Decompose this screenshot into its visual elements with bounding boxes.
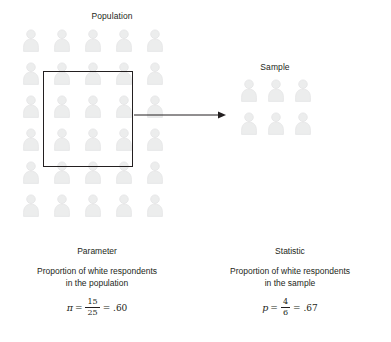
person-icon	[240, 78, 258, 102]
sample-title: Sample	[225, 62, 325, 72]
person-icon	[146, 127, 164, 151]
statistic-description-line2: in the sample	[210, 277, 370, 289]
parameter-numerator: 15	[85, 298, 99, 307]
population-title: Population	[62, 11, 162, 21]
person-icon	[53, 28, 71, 52]
parameter-equals: =	[75, 302, 83, 314]
person-icon	[294, 78, 312, 102]
statistic-numerator: 4	[281, 298, 290, 307]
person-icon	[22, 94, 40, 118]
statistic-symbol: p	[262, 302, 268, 314]
statistic-denominator: 6	[281, 308, 290, 317]
person-icon	[146, 160, 164, 184]
diagram-canvas: Population Sample Parameter Proportion o…	[0, 0, 391, 342]
person-icon	[22, 28, 40, 52]
person-icon	[53, 28, 71, 52]
person-icon	[294, 111, 312, 135]
person-icon	[267, 78, 285, 102]
person-icon	[22, 61, 40, 85]
person-icon	[146, 28, 164, 52]
person-icon	[267, 111, 285, 135]
parameter-heading: Parameter	[22, 245, 172, 257]
person-icon	[146, 160, 164, 184]
person-icon	[146, 28, 164, 52]
person-icon	[146, 61, 164, 85]
sampling-arrow-icon	[134, 108, 226, 122]
person-icon	[22, 28, 40, 52]
person-icon	[115, 28, 133, 52]
person-icon	[22, 193, 40, 217]
statistic-description-line1: Proportion of white respondents	[210, 265, 370, 277]
person-icon	[22, 127, 40, 151]
person-icon	[22, 160, 40, 184]
statistic-heading: Statistic	[210, 245, 370, 257]
statistic-equals: =	[270, 302, 278, 314]
person-icon	[146, 193, 164, 217]
person-icon	[22, 94, 40, 118]
person-icon	[267, 78, 285, 102]
person-icon	[22, 193, 40, 217]
parameter-denominator: 25	[85, 308, 99, 317]
parameter-result: = .60	[103, 302, 128, 314]
person-icon	[84, 28, 102, 52]
person-icon	[146, 193, 164, 217]
parameter-caption: Parameter Proportion of white respondent…	[22, 245, 172, 317]
person-icon	[115, 193, 133, 217]
person-icon	[146, 127, 164, 151]
parameter-fraction: 15 25	[85, 298, 99, 317]
person-icon	[84, 193, 102, 217]
parameter-symbol: π	[67, 302, 73, 314]
person-icon	[294, 78, 312, 102]
person-icon	[22, 160, 40, 184]
person-icon	[267, 111, 285, 135]
person-icon	[240, 111, 258, 135]
statistic-caption: Statistic Proportion of white respondent…	[210, 245, 370, 317]
person-icon	[115, 193, 133, 217]
parameter-description-line2: in the population	[22, 277, 172, 289]
sample-person-grid	[240, 78, 312, 144]
person-icon	[53, 193, 71, 217]
sample-selection-box	[43, 71, 133, 167]
statistic-result: = .67	[293, 302, 318, 314]
person-icon	[84, 28, 102, 52]
person-icon	[53, 193, 71, 217]
person-icon	[146, 61, 164, 85]
person-icon	[84, 193, 102, 217]
person-icon	[240, 111, 258, 135]
person-icon	[240, 78, 258, 102]
statistic-fraction: 4 6	[281, 298, 290, 317]
person-icon	[115, 28, 133, 52]
person-icon	[22, 127, 40, 151]
parameter-formula: π = 15 25 = .60	[22, 298, 172, 317]
person-icon	[22, 61, 40, 85]
person-icon	[294, 111, 312, 135]
statistic-formula: p = 4 6 = .67	[210, 298, 370, 317]
parameter-description-line1: Proportion of white respondents	[22, 265, 172, 277]
